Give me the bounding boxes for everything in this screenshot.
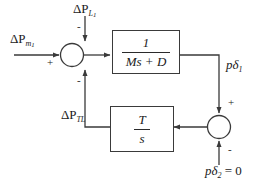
tie-line-numerator: T [134, 112, 149, 129]
sign-left-summer-top-input: - [77, 21, 81, 32]
label-angle-output: pδ1 [226, 58, 242, 74]
label-load-disturbance: ΔPL1 [73, 2, 96, 18]
delta-symbol-mechanical: ΔP [10, 31, 26, 46]
p-delta-symbol: pδ [226, 57, 239, 72]
equals-zero: = 0 [221, 163, 241, 178]
subscript-load-area-1: 1 [93, 11, 96, 18]
delta-symbol-load: ΔP [73, 1, 89, 16]
tie-line-block[interactable]: T s [110, 106, 174, 152]
sign-left-summer-bottom-input: - [77, 75, 81, 86]
subscript-angle-1: 1 [239, 65, 243, 74]
swing-equation-denominator: Ms + D [122, 52, 171, 70]
p-delta-2-symbol: pδ [205, 163, 218, 178]
label-second-area-angle: pδ2 = 0 [205, 164, 242, 180]
subscript-TL: TL [77, 115, 86, 124]
swing-equation-fraction: 1 Ms + D [122, 35, 171, 70]
sign-right-summer-top-input: + [228, 97, 234, 108]
sign-right-summer-bottom-input: - [228, 144, 232, 155]
delta-symbol-tieline: ΔP [61, 107, 77, 122]
subscript-area-1: 1 [31, 41, 34, 48]
label-mechanical-power: ΔPm1 [10, 32, 35, 48]
sign-left-summer-left-input: + [47, 57, 53, 68]
swing-equation-block[interactable]: 1 Ms + D [112, 30, 180, 74]
wiring-layer [0, 0, 272, 185]
tie-line-fraction: T s [134, 112, 149, 147]
left-summing-junction-circle [61, 44, 84, 67]
block-diagram-canvas: 1 Ms + D T s ΔPm1 ΔPL1 ΔPTL pδ1 pδ2 = 0 … [0, 0, 272, 185]
right-summing-junction-circle [208, 116, 231, 139]
label-tie-line-power: ΔPTL [61, 108, 85, 124]
swing-equation-numerator: 1 [122, 35, 171, 52]
tie-line-denominator: s [134, 129, 149, 147]
wire-tieline-feedback [85, 70, 110, 127]
wire-swing-block-to-right-summer [178, 55, 219, 113]
